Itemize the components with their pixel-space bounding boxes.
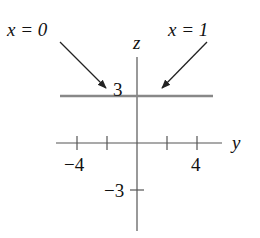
arrow-x1-icon: [162, 42, 207, 88]
label-x0-text: x = 0: [7, 19, 47, 40]
z-axis-label: z: [133, 33, 140, 52]
diagram-canvas: x = 0 x = 1 z y 3 −3 −4 4: [0, 0, 260, 238]
label-x1-text: x = 1: [168, 19, 208, 40]
tick-label-y-neg4: −4: [64, 155, 84, 174]
label-x1: x = 1: [168, 20, 208, 39]
tick-label-z-neg3: −3: [104, 181, 124, 200]
tick-label-y-4: 4: [191, 155, 201, 174]
y-axis-label: y: [232, 133, 240, 152]
label-x0: x = 0: [7, 20, 47, 39]
tick-label-z-3: 3: [113, 80, 123, 99]
arrow-x0-icon: [60, 42, 106, 88]
